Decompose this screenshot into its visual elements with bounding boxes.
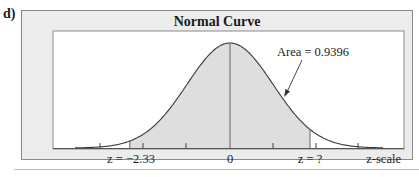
axis-label-z-scale: z-scale [366,152,401,166]
area-annotation: Area = 0.9396 [277,45,349,59]
normal-curve-chart: Area = 0.9396 z = −2.33 0 z = ? z-scale [0,0,419,177]
tick-label-left-z: z = −2.33 [107,152,155,166]
tick-label-right-z: z = ? [298,152,323,166]
tick-label-mean: 0 [227,152,233,166]
divider [14,169,419,170]
